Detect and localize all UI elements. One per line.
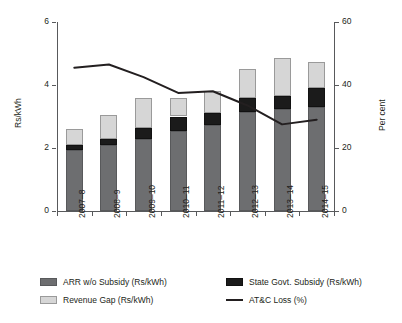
y-axis-right-tick-mark	[335, 22, 339, 23]
bar-segment-subsidy	[135, 128, 152, 138]
x-axis-tick-mark	[196, 212, 197, 216]
x-axis-tick-label: 2010–11	[182, 186, 191, 218]
y-axis-left-line	[57, 22, 58, 212]
y-axis-right-tick-label: 20	[342, 143, 382, 152]
bar-segment-subsidy	[66, 145, 83, 150]
y-axis-right-title: Per cent	[378, 99, 387, 131]
y-axis-right-tick-mark	[335, 85, 339, 86]
x-axis-tick-mark	[299, 212, 300, 216]
bar-segment-subsidy	[204, 113, 221, 126]
y-axis-left-tick-label: 6	[9, 17, 49, 26]
chart-legend: ARR w/o Subsidy (Rs/kWh)Revenue Gap (Rs/…	[40, 277, 385, 317]
y-axis-right-tick-label: 0	[342, 206, 382, 215]
bar-segment-subsidy	[274, 96, 291, 109]
legend-item-label: AT&C Loss (%)	[249, 295, 307, 305]
y-axis-right-tick-mark	[335, 148, 339, 149]
bar-2008-9	[100, 22, 117, 211]
bar-segment-revenue-gap	[66, 129, 83, 145]
y-axis-left-tick-label: 0	[9, 206, 49, 215]
y-axis-left-tick-mark	[52, 22, 56, 23]
bar-segment-revenue-gap	[239, 69, 256, 97]
y-axis-left-tick-label: 4	[9, 80, 49, 89]
legend-swatch-atc-loss	[226, 296, 243, 304]
y-axis-right-tick-label: 40	[342, 80, 382, 89]
bar-2007-8	[66, 22, 83, 211]
bar-2013-14	[274, 22, 291, 211]
y-axis-left-tick-mark	[52, 211, 56, 212]
bar-2010-11	[170, 22, 187, 211]
bar-segment-subsidy	[239, 98, 256, 112]
bar-segment-subsidy	[100, 139, 117, 145]
bar-segment-subsidy	[308, 88, 325, 108]
legend-swatch-arr	[40, 278, 57, 286]
x-axis-tick-label: 2009–10	[148, 185, 157, 218]
x-axis-tick-label: 2011–12	[217, 186, 226, 218]
y-axis-left-title: Rs/kWh	[14, 98, 23, 128]
y-axis-right-line	[334, 22, 335, 212]
bar-2009-10	[135, 22, 152, 211]
bar-2011-12	[204, 22, 221, 211]
x-axis-tick-mark	[161, 212, 162, 216]
legend-item[interactable]: ARR w/o Subsidy (Rs/kWh)	[40, 277, 167, 287]
bar-2014-15	[308, 22, 325, 211]
legend-item-label: Revenue Gap (Rs/kWh)	[63, 295, 153, 305]
legend-item-label: ARR w/o Subsidy (Rs/kWh)	[63, 277, 167, 287]
legend-swatch-revenue-gap	[40, 296, 57, 304]
y-axis-left-tick-mark	[52, 85, 56, 86]
x-axis-tick-mark	[265, 212, 266, 216]
x-axis-tick-mark	[126, 212, 127, 216]
bar-segment-revenue-gap	[204, 91, 221, 112]
bar-2012-13	[239, 22, 256, 211]
bar-segment-revenue-gap	[274, 58, 291, 96]
plot-area: 0246 0204060 2007–82008–92009–102010–112…	[57, 22, 334, 211]
y-axis-left-tick-label: 2	[9, 143, 49, 152]
x-axis-tick-mark	[57, 212, 58, 216]
legend-item[interactable]: AT&C Loss (%)	[226, 295, 307, 305]
x-axis-tick-label: 2007–8	[78, 190, 87, 218]
legend-swatch-subsidy	[226, 278, 243, 286]
y-axis-right-tick-mark	[335, 211, 339, 212]
bar-segment-revenue-gap	[170, 98, 187, 117]
bar-segment-revenue-gap	[308, 62, 325, 87]
bar-segment-revenue-gap	[135, 98, 152, 129]
stacked-bar-line-chart: Rs/kWh Per cent 0246 0204060 2007–82008–…	[0, 0, 402, 323]
x-axis-tick-label: 2014–15	[321, 185, 330, 218]
legend-item[interactable]: Revenue Gap (Rs/kWh)	[40, 295, 153, 305]
x-axis-tick-label: 2008–9	[113, 190, 122, 218]
y-axis-left-tick-mark	[52, 148, 56, 149]
x-axis-tick-mark	[334, 212, 335, 216]
legend-item-label: State Govt. Subsidy (Rs/kWh)	[249, 277, 362, 287]
bar-segment-revenue-gap	[100, 115, 117, 139]
bar-segment-subsidy	[170, 117, 187, 131]
atc-loss-line-series	[57, 22, 334, 212]
x-axis-tick-mark	[92, 212, 93, 216]
x-axis-tick-mark	[230, 212, 231, 216]
legend-item[interactable]: State Govt. Subsidy (Rs/kWh)	[226, 277, 362, 287]
x-axis-tick-label: 2012–13	[251, 185, 260, 218]
x-axis-tick-label: 2013–14	[286, 185, 295, 218]
y-axis-right-tick-label: 60	[342, 17, 382, 26]
